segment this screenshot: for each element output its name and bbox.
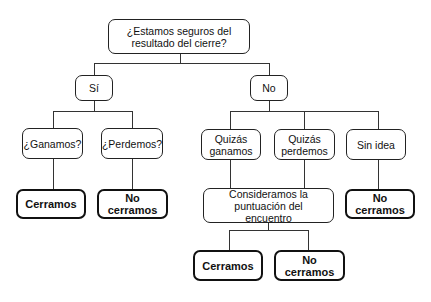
node-quizas-perdemos: Quizás perdemos [274, 129, 335, 160]
outcome-no-cerramos: No cerramos [97, 189, 168, 219]
connector [53, 111, 54, 128]
connector [132, 158, 133, 189]
outcome-cerramos: Cerramos [16, 189, 86, 219]
connector [229, 230, 230, 250]
node-perdemos: ¿Perdemos? [101, 128, 163, 159]
node-quizas-ganamos: Quizás ganamos [201, 129, 261, 160]
connector [269, 100, 270, 111]
connector [378, 159, 379, 189]
connector [229, 230, 309, 231]
connector [304, 111, 305, 129]
connector [180, 53, 181, 63]
root-question-node: ¿Estamos seguros del resultado del cierr… [108, 19, 250, 54]
node-no: No [250, 75, 288, 101]
connector [53, 111, 133, 112]
connector [308, 230, 309, 250]
connector [132, 111, 133, 128]
outcome-no-cerramos-sin-idea: No cerramos [345, 189, 415, 219]
node-sin-idea: Sin idea [346, 129, 406, 160]
connector [269, 63, 270, 75]
connector [94, 63, 95, 75]
outcome-cerramos-consider: Cerramos [193, 250, 263, 281]
node-consideramos: Consideramos la puntuación del encuentro [203, 188, 334, 223]
connector [53, 158, 54, 189]
outcome-no-cerramos-consider: No cerramos [274, 250, 345, 281]
connector [304, 159, 305, 188]
connector [94, 100, 95, 111]
node-ganamos: ¿Ganamos? [22, 128, 83, 159]
connector [230, 159, 231, 188]
node-si: Sí [75, 75, 113, 101]
connector [378, 111, 379, 129]
connector [94, 63, 269, 64]
connector [230, 111, 231, 129]
